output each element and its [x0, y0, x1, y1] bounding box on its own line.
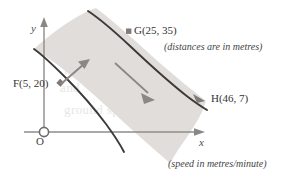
caption-distances: (distances are in metres) [164, 42, 262, 52]
origin-label: O [36, 136, 44, 147]
caption-speed: (speed in metres/minute) [168, 159, 267, 169]
y-axis-label: y [31, 23, 36, 34]
point-label-G: G(25, 35) [134, 25, 177, 36]
point-label-F: F(5, 20) [13, 78, 48, 89]
x-axis-arrowhead [194, 128, 205, 136]
point-marker-G [126, 29, 131, 34]
river-channel-diagram: is sailing km/h in and ground spe y x O … [0, 0, 304, 180]
x-axis-label: x [199, 137, 204, 148]
point-label-H: H(46, 7) [211, 93, 248, 104]
y-axis-arrowhead [40, 17, 48, 27]
